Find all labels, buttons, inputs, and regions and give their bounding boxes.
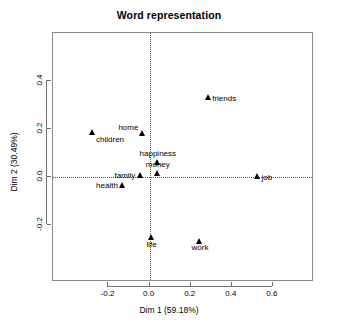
point-label: children <box>96 135 124 144</box>
word-representation-chart: Word representation childrenhomefriendsh… <box>0 0 338 335</box>
point-label: home <box>118 123 138 132</box>
y-axis-tick-label: 0.4 <box>35 71 44 89</box>
point-label: money <box>146 160 170 169</box>
triangle-marker-icon <box>139 130 145 136</box>
x-axis-tick <box>272 282 273 286</box>
point-label: work <box>191 243 208 252</box>
point-label: health <box>96 181 118 190</box>
triangle-marker-icon <box>119 182 125 188</box>
x-axis-tick-label: 0.6 <box>266 289 277 298</box>
triangle-marker-icon <box>254 173 260 179</box>
x-axis-line <box>107 286 271 287</box>
y-axis-tick <box>47 128 51 129</box>
y-axis-line <box>46 80 47 224</box>
x-axis-tick <box>149 282 150 286</box>
triangle-marker-icon <box>137 172 143 178</box>
y-axis-tick-label: 0.0 <box>35 167 44 185</box>
x-axis-tick <box>190 282 191 286</box>
x-axis-label: Dim 1 (59.18%) <box>0 305 338 315</box>
point-label: family <box>114 171 135 180</box>
point-label: happiness <box>140 149 176 158</box>
plot-panel: childrenhomefriendshappinessmoneyfamilyj… <box>52 32 313 281</box>
point-label: life <box>147 240 157 249</box>
x-axis-tick-label: -0.2 <box>101 289 115 298</box>
x-axis-tick-label: 0.2 <box>184 289 195 298</box>
y-axis-tick-label: -0.2 <box>35 215 44 233</box>
triangle-marker-icon <box>205 94 211 100</box>
point-label: friends <box>212 94 236 103</box>
point-label: job <box>261 173 272 182</box>
y-axis-tick <box>47 224 51 225</box>
x-axis-tick <box>231 282 232 286</box>
x-axis-tick-label: 0.0 <box>143 289 154 298</box>
triangle-marker-icon <box>89 129 95 135</box>
y-axis-label: Dim 2 (30.49%) <box>9 102 19 222</box>
y-axis-tick <box>47 176 51 177</box>
chart-title: Word representation <box>0 9 338 21</box>
x-axis-tick-label: 0.4 <box>225 289 236 298</box>
y-axis-tick-label: 0.2 <box>35 119 44 137</box>
triangle-marker-icon <box>154 170 160 176</box>
y-axis-tick <box>47 80 51 81</box>
x-axis-tick <box>107 282 108 286</box>
horizontal-reference-line <box>53 177 312 178</box>
